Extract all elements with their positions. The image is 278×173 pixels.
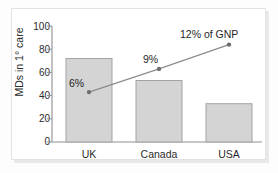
annotation-usa: 12% of GNP [180,28,238,40]
gnp-marker-canada [157,67,161,71]
x-tick-label-canada: Canada [131,148,187,160]
chart-plot-area: MDs in 1° care 100 80 60 40 20 0 [0,0,278,173]
annotation-canada: 9% [143,53,158,65]
x-tick-label-uk: UK [66,148,112,160]
bar-uk [66,59,112,143]
gnp-marker-usa [227,42,231,46]
x-tick-label-usa: USA [206,148,252,160]
gnp-marker-uk [87,90,91,94]
bar-usa [206,104,252,142]
chart-figure: MDs in 1° care 100 80 60 40 20 0 [0,0,278,173]
y-axis-tick-marks [47,26,52,142]
annotation-uk: 6% [69,77,84,89]
bar-canada [136,81,182,143]
